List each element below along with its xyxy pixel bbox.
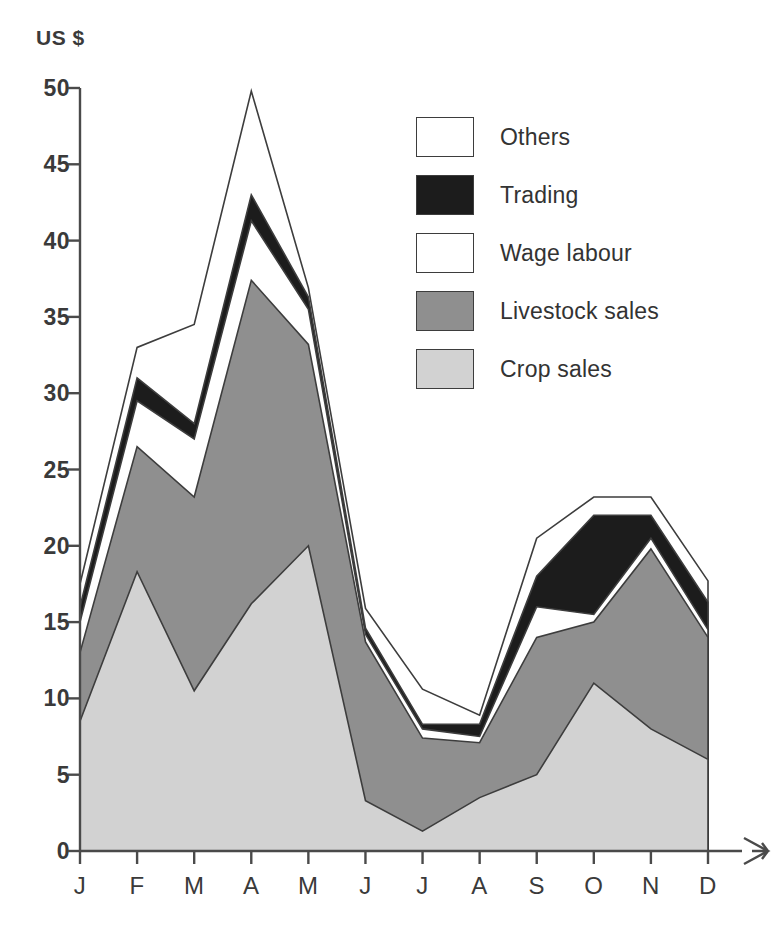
legend-label: Livestock sales bbox=[500, 298, 659, 325]
x-tick-label: M bbox=[298, 872, 319, 900]
legend-item: Others bbox=[416, 110, 716, 164]
legend-item: Livestock sales bbox=[416, 284, 716, 338]
x-axis-arrow-icon bbox=[744, 838, 768, 864]
legend: OthersTradingWage labourLivestock salesC… bbox=[416, 110, 716, 400]
legend-item: Wage labour bbox=[416, 226, 716, 280]
legend-item: Crop sales bbox=[416, 342, 716, 396]
legend-label: Crop sales bbox=[500, 356, 612, 383]
legend-swatch-icon bbox=[416, 349, 474, 389]
x-tick-label: J bbox=[416, 872, 429, 900]
x-tick-label: N bbox=[642, 872, 660, 900]
x-tick-label: J bbox=[74, 872, 87, 900]
x-tick-label: A bbox=[243, 872, 260, 900]
legend-swatch-icon bbox=[416, 117, 474, 157]
x-tick-label: O bbox=[584, 872, 603, 900]
legend-swatch-icon bbox=[416, 233, 474, 273]
legend-item: Trading bbox=[416, 168, 716, 222]
legend-swatch-icon bbox=[416, 175, 474, 215]
x-tick-label: M bbox=[184, 872, 205, 900]
stacked-area-chart: US $ 05101520253035404550 JFMAMJJASOND O… bbox=[0, 0, 783, 926]
legend-label: Wage labour bbox=[500, 240, 632, 267]
x-tick-label: D bbox=[699, 872, 717, 900]
x-tick-label: S bbox=[528, 872, 545, 900]
x-tick-label: A bbox=[471, 872, 488, 900]
legend-swatch-icon bbox=[416, 291, 474, 331]
x-tick-label: F bbox=[129, 872, 144, 900]
x-tick-label: J bbox=[359, 872, 372, 900]
legend-label: Others bbox=[500, 124, 570, 151]
legend-label: Trading bbox=[500, 182, 579, 209]
